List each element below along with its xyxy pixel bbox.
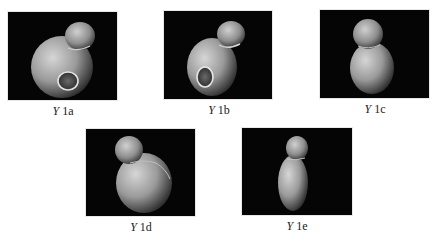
specimen-1e-illustration — [242, 128, 352, 215]
specimen-1d-illustration — [86, 129, 195, 216]
panel-label-1a: Y 1a — [52, 104, 73, 119]
specimen-1c-illustration — [320, 10, 429, 98]
specimen-image-1d — [86, 129, 195, 216]
panel-label-symbol: Y — [364, 102, 371, 116]
panel-label-id: 1d — [137, 220, 152, 234]
panel-label-1b: Y 1b — [208, 103, 230, 118]
specimen-image-1b — [164, 11, 272, 99]
specimen-1b-illustration — [164, 11, 272, 99]
specimen-1a-illustration — [8, 12, 117, 100]
panel-label-symbol: Y — [286, 219, 293, 233]
panel-label-id: 1a — [59, 104, 73, 118]
panel-label-symbol: Y — [52, 104, 59, 118]
panel-label-id: 1b — [215, 103, 230, 117]
specimen-image-1e — [242, 128, 352, 215]
panel-label-1d: Y 1d — [130, 220, 152, 235]
panel-label-1e: Y 1e — [286, 219, 307, 234]
specimen-image-1c — [320, 10, 429, 98]
panel-label-id: 1e — [293, 219, 307, 233]
panel-label-symbol: Y — [208, 103, 215, 117]
panel-label-1c: Y 1c — [364, 102, 385, 117]
panel-label-symbol: Y — [130, 220, 137, 234]
specimen-image-1a — [8, 12, 117, 100]
panel-label-id: 1c — [371, 102, 385, 116]
